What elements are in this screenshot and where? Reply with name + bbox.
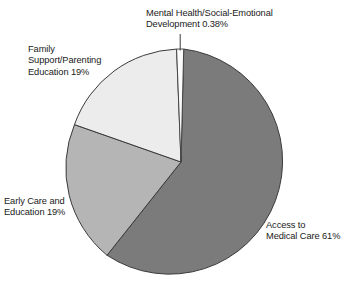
pie-chart-graphic (0, 0, 361, 286)
slice-label-access-medical: Access to Medical Care 61% (266, 220, 340, 243)
slice-label-mental-health: Mental Health/Social-Emotional Developme… (146, 8, 273, 31)
pie-chart-figure: Mental Health/Social-Emotional Developme… (0, 0, 361, 286)
slice-label-family-support: Family Support/Parenting Education 19% (28, 44, 101, 78)
slice-label-early-care: Early Care and Education 19% (4, 196, 65, 219)
